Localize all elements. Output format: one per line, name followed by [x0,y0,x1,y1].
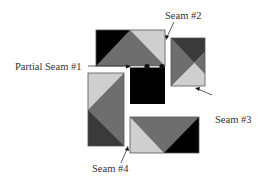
left-block [88,73,124,146]
quilt-diagram: Partial Seam #1 Seam #2 Seam #3 Seam #4 [0,0,264,180]
partial-seam-1-label: Partial Seam #1 [15,61,82,72]
right-block [171,38,205,86]
seam-3-pointer [195,87,212,95]
seam-2-pointer [165,22,174,40]
seam-3-label: Seam #3 [215,114,251,125]
seam-4-pointer [121,146,129,163]
bottom-block [130,117,199,153]
center-square [130,67,165,104]
seam-2-label: Seam #2 [165,10,201,21]
top-block [96,30,165,66]
seam-4-label: Seam #4 [92,163,129,174]
